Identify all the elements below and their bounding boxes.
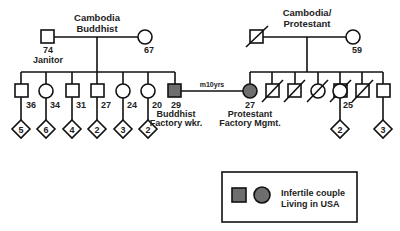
left-mother-age: 67 xyxy=(144,45,154,55)
husband-occupation: Factory wkr. xyxy=(150,118,203,128)
sibling-age: 25 xyxy=(343,100,353,110)
left-origin-label-1: Cambodia xyxy=(74,12,121,23)
legend-line-1: Infertile couple xyxy=(281,188,345,198)
sibling-square xyxy=(377,84,390,97)
right-origin-label-1: Cambodia/ xyxy=(283,7,332,18)
child-age: 31 xyxy=(76,100,86,110)
husband-square-infertile xyxy=(168,84,181,97)
child-age: 34 xyxy=(50,100,60,110)
legend-line-2: Living in USA xyxy=(281,199,340,209)
offspring-count: 2 xyxy=(94,125,99,135)
offspring-count: 2 xyxy=(337,125,342,135)
right-origin-label-2: Protestant xyxy=(284,18,332,29)
wife-circle-infertile xyxy=(243,84,257,98)
left-origin-label-2: Buddhist xyxy=(76,23,118,34)
legend-square-icon xyxy=(232,188,246,202)
offspring-count: 6 xyxy=(43,125,48,135)
pedigree-diagram: Cambodia Buddhist 74 Janitor 67 Cambodia… xyxy=(0,0,400,231)
offspring-count: 3 xyxy=(120,125,125,135)
wife-occupation: Factory Mgmt. xyxy=(219,118,281,128)
left-father-age: 74 xyxy=(43,45,53,55)
child-circle xyxy=(141,84,155,98)
right-mother-circle xyxy=(346,30,360,44)
left-father-square xyxy=(41,30,54,43)
legend-circle-icon xyxy=(254,187,270,203)
offspring-count: 5 xyxy=(18,125,23,135)
child-square xyxy=(91,84,104,97)
child-square xyxy=(66,84,79,97)
offspring-count: 4 xyxy=(69,125,74,135)
sibling-circle xyxy=(333,84,347,98)
child-circle xyxy=(116,84,130,98)
left-father-occupation: Janitor xyxy=(33,55,64,65)
child-age: 27 xyxy=(101,100,111,110)
child-age: 24 xyxy=(127,100,137,110)
offspring-count: 3 xyxy=(380,125,385,135)
marriage-duration: m10yrs xyxy=(200,81,225,89)
left-mother-circle xyxy=(138,30,152,44)
right-mother-age: 59 xyxy=(352,45,362,55)
child-square xyxy=(15,84,28,97)
child-age: 36 xyxy=(26,100,36,110)
child-circle xyxy=(39,84,53,98)
